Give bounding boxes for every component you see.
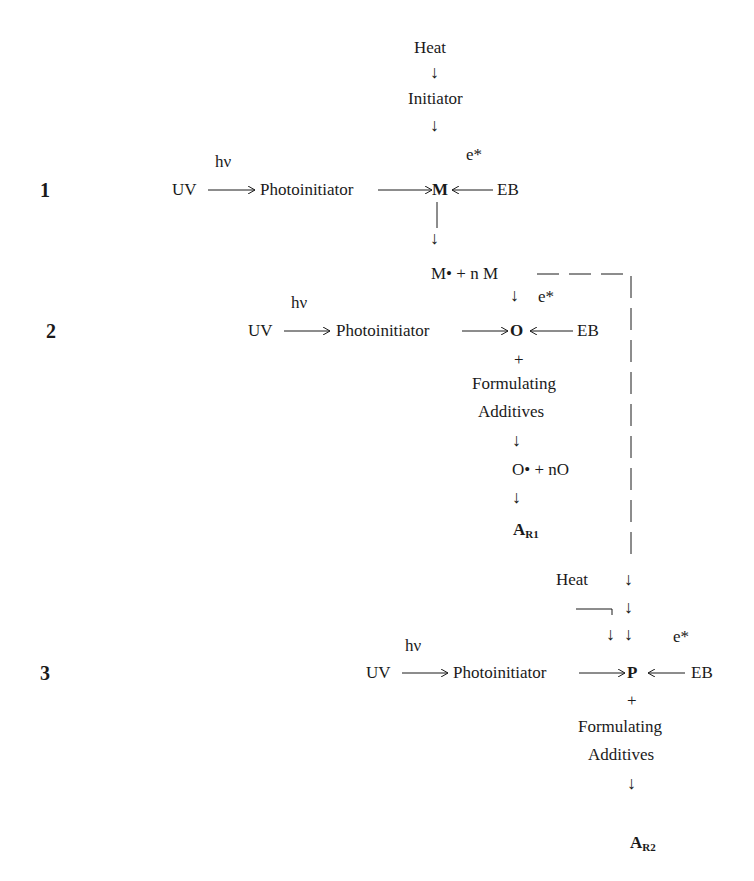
dashed-connector	[537, 274, 631, 560]
hv-label: hν	[291, 293, 307, 313]
heat-label: Heat	[414, 38, 446, 58]
down-arrow-icon: ↓	[624, 569, 633, 589]
e-star-label: e*	[673, 627, 689, 647]
additives-line2: Additives	[478, 402, 544, 422]
heat-label: Heat	[556, 570, 588, 590]
additives-line1: Formulating	[578, 717, 662, 737]
down-arrow-icon: ↓	[512, 430, 521, 450]
eb-label: EB	[497, 180, 519, 200]
down-arrow-icon: ↓	[430, 62, 439, 82]
photoinitiator-label: Photoinitiator	[453, 663, 547, 683]
uv-label: UV	[248, 321, 273, 341]
down-arrow-icon: ↓	[627, 773, 636, 793]
e-star-label: e*	[538, 287, 554, 307]
down-arrow-icon: ↓	[430, 228, 439, 248]
down-arrow-icon: ↓	[512, 487, 521, 507]
section-label-1: 1	[40, 180, 50, 200]
section-label-2: 2	[46, 321, 56, 341]
product-ar2: AR2	[630, 833, 656, 857]
plus-sign: +	[627, 691, 637, 711]
down-arrow-icon: ↓	[510, 285, 519, 305]
monomer-radical-label: M• + n M	[431, 264, 498, 284]
section-label-3: 3	[40, 663, 50, 683]
hv-label: hν	[405, 636, 421, 656]
polymer-node: P	[627, 663, 637, 683]
down-arrow-icon: ↓	[624, 624, 633, 644]
additives-line2: Additives	[588, 745, 654, 765]
oligomer-node: O	[510, 321, 523, 341]
uv-label: UV	[172, 180, 197, 200]
e-star-label: e*	[466, 145, 482, 165]
eb-label: EB	[577, 321, 599, 341]
down-arrow-icon: ↓	[430, 115, 439, 135]
monomer-node: M	[432, 180, 448, 200]
hv-label: hν	[215, 152, 231, 172]
down-arrow-icon: ↓	[606, 624, 615, 644]
uv-label: UV	[366, 663, 391, 683]
down-arrow-icon: ↓	[624, 597, 633, 617]
product-ar1: AR1	[513, 520, 539, 544]
photoinitiator-label: Photoinitiator	[260, 180, 354, 200]
initiator-label: Initiator	[408, 89, 463, 109]
eb-label: EB	[691, 663, 713, 683]
oligomer-radical-label: O• + nO	[512, 460, 569, 480]
plus-sign: +	[514, 350, 524, 370]
photoinitiator-label: Photoinitiator	[336, 321, 430, 341]
additives-line1: Formulating	[472, 374, 556, 394]
